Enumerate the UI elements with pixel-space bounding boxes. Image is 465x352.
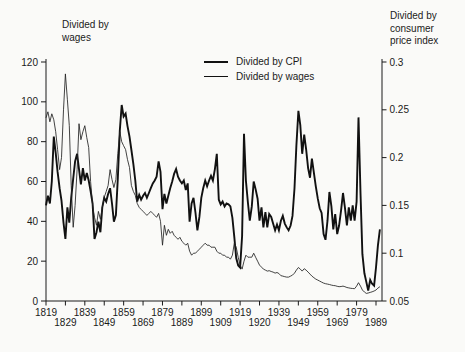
y-left-tick-label: 0 <box>32 296 38 307</box>
right-axis-title-line3: price index <box>390 35 438 48</box>
x-tick-label-1949: 1949 <box>287 317 310 328</box>
y-left-tick-label: 20 <box>27 256 39 267</box>
right-axis-title: Divided by consumer price index <box>390 10 438 48</box>
legend: Divided by CPI Divided by wages <box>204 54 314 84</box>
x-tick-label-1849: 1849 <box>93 317 116 328</box>
y-right-tick-label: 0.25 <box>390 104 410 115</box>
y-right-tick-label: 0.2 <box>390 152 404 163</box>
y-right-tick-label: 0.1 <box>390 248 404 259</box>
thick-line-swatch <box>204 61 228 63</box>
x-tick-label-1920: 1920 <box>248 317 271 328</box>
right-axis-title-line2: consumer <box>390 23 438 36</box>
legend-item-cpi: Divided by CPI <box>204 54 314 69</box>
y-left-tick-label: 120 <box>21 57 38 68</box>
y-left-tick-label: 100 <box>21 96 38 107</box>
left-axis-title-line1: Divided by <box>62 19 109 32</box>
wages-series-line <box>46 74 380 294</box>
legend-item-wages: Divided by wages <box>204 69 314 84</box>
legend-label-wages: Divided by wages <box>236 71 314 82</box>
x-tick-label-1969: 1969 <box>326 317 349 328</box>
x-tick-label-1989: 1989 <box>365 317 388 328</box>
left-axis-title: Divided by wages <box>62 19 109 44</box>
chart-plot-area: 0204060801001200.050.10.150.20.250.31819… <box>0 0 465 352</box>
y-left-tick-label: 60 <box>27 176 39 187</box>
x-tick-label-1869: 1869 <box>132 317 155 328</box>
right-axis-title-line1: Divided by <box>390 10 438 23</box>
y-left-tick-label: 80 <box>27 136 39 147</box>
y-right-tick-label: 0.3 <box>390 57 404 68</box>
x-tick-label-1889: 1889 <box>171 317 194 328</box>
left-axis-title-line2: wages <box>62 32 109 45</box>
y-left-tick-label: 40 <box>27 216 39 227</box>
x-tick-label-1909: 1909 <box>210 317 233 328</box>
x-tick-label-1829: 1829 <box>54 317 77 328</box>
y-right-tick-label: 0.15 <box>390 200 410 211</box>
legend-label-cpi: Divided by CPI <box>236 56 302 67</box>
thin-line-swatch <box>204 76 228 77</box>
cpi-series-line <box>46 105 380 291</box>
gold-price-ratio-chart: 0204060801001200.050.10.150.20.250.31819… <box>0 0 465 352</box>
y-right-tick-label: 0.05 <box>390 296 410 307</box>
